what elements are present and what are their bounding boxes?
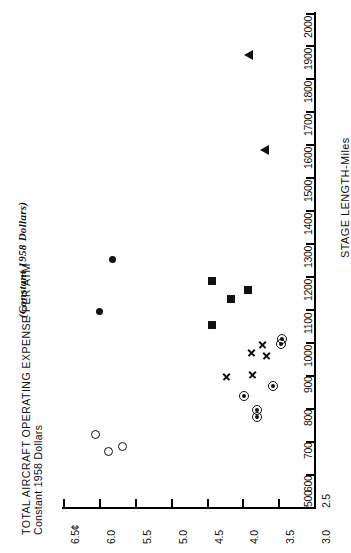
y-tick-5-5 [135,499,137,507]
x-tick-label-1100: 1100 [302,313,314,334]
data-point-circle-dot [268,381,278,391]
x-tick-label-1600: 1600 [302,147,314,169]
y-tick-3-0 [314,499,316,507]
x-tick-500 [306,507,314,509]
data-point-dot [109,256,116,263]
data-point-circle-open [104,447,113,456]
x-tick-label-700: 700 [302,442,314,459]
x-tick-label-800: 800 [302,409,314,426]
x-tick-1100 [306,309,314,311]
data-point-circle-dot [252,412,262,422]
operating-expense-axis-line [62,507,316,509]
y-tick-label-3-0: 3.0 [320,530,332,544]
y-tick-label-5-5: 5.5 [141,530,153,544]
x-tick-label-2000: 2000 [302,16,314,38]
data-point-square [208,277,216,285]
data-point-square [208,321,216,329]
y-tick-5-0 [171,499,173,507]
x-tick-1500 [306,177,314,179]
x-tick-label-900: 900 [302,376,314,393]
y-tick-4-5 [207,499,209,507]
y-tick-label-6-0: 6.0 [105,530,117,544]
y-tick-label-2-5: 2.5 [320,494,332,508]
y-tick-3-5 [278,499,280,507]
x-tick-label-1900: 1900 [302,48,314,70]
y-tick-label-3-5: 3.5 [284,530,296,544]
data-point-triangle [260,145,269,155]
x-tick-1400 [306,210,314,212]
x-tick-1200 [306,276,314,278]
y-tick-4-0 [242,499,244,507]
x-tick-1700 [306,111,314,113]
x-tick-label-500: 500 [302,490,314,507]
data-point-cross [222,372,231,381]
data-point-cross [258,340,267,349]
x-tick-label-1000: 1000 [302,345,314,367]
data-point-circle-dot [277,334,287,344]
x-axis-title: STAGE LENGTH-Miles [339,137,351,258]
data-point-cross [248,370,257,379]
y-tick-6-0 [99,499,101,507]
x-tick-label-1300: 1300 [302,246,314,268]
x-tick-2000 [306,13,314,15]
y-tick-label-4-0: 4.0 [248,530,260,544]
y-axis-title-line2: Constant 1958 Dollars [32,425,44,535]
x-tick-1900 [306,45,314,47]
data-point-circle-dot [239,391,249,401]
x-tick-label-1500: 1500 [302,180,314,202]
y-tick-6-5 [63,499,65,507]
x-tick-1800 [306,78,314,80]
y-tick-label-5-0: 5.0 [177,530,189,544]
x-tick-label-600: 600 [302,475,314,492]
stage-length-axis-line [314,12,316,509]
data-point-square [227,295,235,303]
x-tick-label-1800: 1800 [302,81,314,103]
chart-title: (Constant 1958 Dollars) [16,202,28,318]
data-point-cross [247,348,256,357]
x-tick-1300 [306,243,314,245]
data-point-circle-open [91,430,100,439]
data-point-circle-open [118,442,127,451]
x-tick-label-1400: 1400 [302,213,314,235]
data-point-triangle [244,50,253,60]
x-tick-1000 [306,342,314,344]
x-tick-label-1200: 1200 [302,279,314,301]
data-point-square [244,286,252,294]
x-tick-1600 [306,144,314,146]
x-tick-label-1700: 1700 [302,114,314,136]
y-tick-label-4-5: 4.5 [213,530,225,544]
data-point-cross [262,351,271,360]
y-tick-label-6-5: 6.5¢ [69,525,81,544]
data-point-dot [96,308,103,315]
